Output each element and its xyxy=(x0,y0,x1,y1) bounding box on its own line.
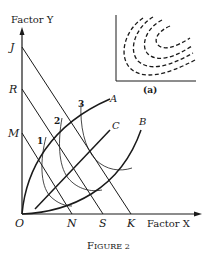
isoquant-3 xyxy=(81,104,132,170)
point-label-s: S xyxy=(99,217,107,230)
point-label-m: M xyxy=(7,127,20,140)
dashed-contour-inner xyxy=(156,26,190,48)
point-label-r: R xyxy=(8,83,17,96)
y-axis-title: Factor Y xyxy=(11,14,54,25)
path-label-c: C xyxy=(112,120,120,131)
main-axes xyxy=(20,27,203,217)
production-diagram: J R M O N S K Factor Y Factor X 1 2 3 A … xyxy=(0,0,212,256)
path-label-b: B xyxy=(138,116,146,127)
figure-caption: FIGURE 2 xyxy=(87,240,130,251)
inset-dashed-contours xyxy=(124,17,195,75)
isoquant-label-1: 1 xyxy=(37,136,43,146)
dashed-contour-3 xyxy=(144,20,192,58)
point-label-k: K xyxy=(126,217,136,230)
x-axis-arrow-icon xyxy=(194,212,202,217)
isoquant-label-3: 3 xyxy=(78,99,84,109)
path-label-a: A xyxy=(109,93,117,104)
isoquant-label-2: 2 xyxy=(54,116,60,126)
x-axis-title: Factor X xyxy=(147,218,191,229)
point-label-n: N xyxy=(66,217,77,230)
inset-label: (a) xyxy=(143,85,157,95)
point-label-j: J xyxy=(8,41,15,54)
isocost-line-mn xyxy=(22,133,72,214)
origin-label: O xyxy=(15,217,24,230)
inset-diagram: (a) xyxy=(116,15,196,95)
expansion-path-c xyxy=(35,130,110,209)
y-axis-arrow-icon xyxy=(20,27,25,35)
